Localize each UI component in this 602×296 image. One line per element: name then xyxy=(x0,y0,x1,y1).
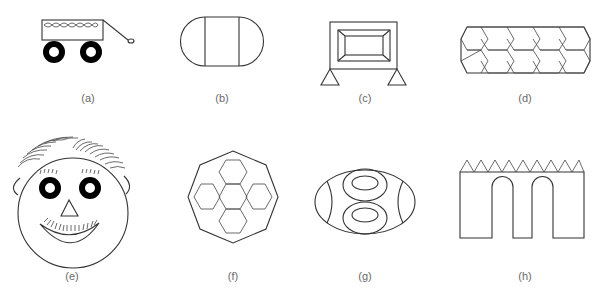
panel-label-e: (e) xyxy=(65,270,78,282)
panel-label-h: (h) xyxy=(518,270,531,282)
face-figure xyxy=(13,137,129,268)
octagon-hexagons-figure xyxy=(188,151,278,243)
panel-label-g: (g) xyxy=(358,270,371,282)
panel-label-c: (c) xyxy=(359,92,372,104)
figure-canvas xyxy=(0,0,602,296)
panel-label-f: (f) xyxy=(228,270,238,282)
panel-label-b: (b) xyxy=(215,92,228,104)
castle-wall-figure xyxy=(460,160,584,238)
stadium-figure xyxy=(181,17,264,66)
panel-label-d: (d) xyxy=(518,92,531,104)
ellipse-figure xyxy=(315,169,415,234)
panel-label-a: (a) xyxy=(81,92,94,104)
framed-rectangle-figure xyxy=(321,22,406,85)
hexagon-band-figure xyxy=(461,27,590,73)
wagon-figure xyxy=(42,20,134,60)
